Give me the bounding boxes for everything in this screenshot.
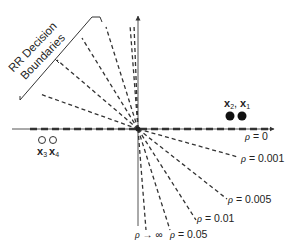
upper-boundary-line: [106, 27, 138, 129]
upper-boundary-line: [57, 60, 138, 129]
upper-boundary-line: [82, 38, 138, 129]
point-x1: [238, 112, 247, 121]
label-rho-0.001: ρ = 0.001: [240, 152, 284, 164]
point-x2: [226, 112, 235, 121]
label-rho-inf: ρ → ∞: [134, 229, 163, 240]
upper-boundary-line: [40, 94, 138, 129]
label-rho-0: ρ = 0: [244, 130, 268, 142]
origin-marker: [136, 127, 141, 132]
boundary-rho-0.05: [138, 129, 170, 230]
label-x2-x1: x2,x1: [224, 97, 250, 110]
label-rho-0.01: ρ = 0.01: [196, 212, 235, 224]
rr-decision-boundaries-diagram: RR Decision Boundaries x2,x1 x3x4 ρ = 0 …: [0, 0, 293, 251]
label-rho-0.005: ρ = 0.005: [227, 193, 271, 205]
label-rho-0.05: ρ = 0.05: [169, 228, 208, 240]
label-x3-x4: x3x4: [37, 145, 59, 158]
point-x4: [50, 137, 57, 144]
boundary-rho-inf: [138, 129, 146, 230]
point-x3: [39, 137, 46, 144]
boundary-rho-0.005: [138, 129, 227, 199]
